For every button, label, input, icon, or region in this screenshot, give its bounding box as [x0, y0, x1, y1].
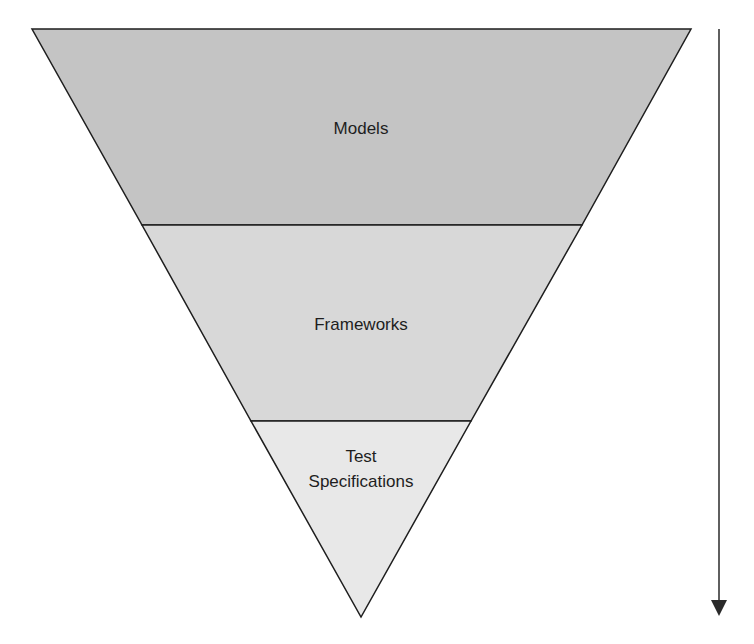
label-models: Models — [334, 119, 389, 138]
label-specifications: Specifications — [309, 472, 414, 491]
down-arrow-icon — [711, 29, 727, 616]
inverted-pyramid-diagram: Models Frameworks Test Specifications — [0, 0, 754, 644]
label-frameworks: Frameworks — [314, 315, 408, 334]
label-test: Test — [345, 447, 376, 466]
